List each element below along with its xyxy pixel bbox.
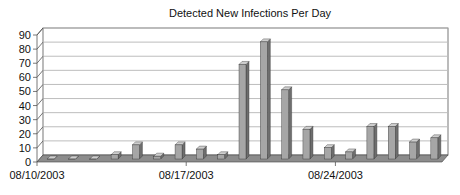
bar bbox=[324, 148, 331, 159]
bar-side bbox=[289, 87, 292, 159]
grid-diagonal bbox=[37, 141, 43, 148]
x-tick-label: 08/10/2003 bbox=[9, 169, 64, 181]
bar bbox=[111, 155, 118, 159]
grid-diagonal bbox=[37, 56, 43, 63]
grid-diagonal bbox=[37, 84, 43, 91]
bar bbox=[239, 64, 246, 159]
bar-side bbox=[438, 135, 441, 159]
grid-diagonal bbox=[37, 127, 43, 134]
y-tick-label: 10 bbox=[19, 142, 31, 154]
bar bbox=[431, 138, 438, 159]
bar bbox=[90, 159, 97, 160]
bar-side bbox=[395, 124, 398, 159]
bar bbox=[282, 90, 289, 159]
bar-side bbox=[310, 126, 313, 159]
y-tick-label: 40 bbox=[19, 100, 31, 112]
x-tick-label: 08/17/2003 bbox=[159, 169, 214, 181]
bar bbox=[218, 155, 225, 159]
bar bbox=[154, 156, 161, 159]
bar bbox=[367, 127, 374, 159]
grid-diagonal bbox=[37, 99, 43, 106]
bar bbox=[388, 127, 395, 159]
bar bbox=[346, 152, 353, 159]
plot-area: 010203040506070809008/10/200308/17/20030… bbox=[0, 0, 460, 195]
bar-side bbox=[267, 39, 270, 159]
grid-diagonal bbox=[37, 113, 43, 120]
x-tick-label: 08/24/2003 bbox=[308, 169, 363, 181]
y-tick-label: 90 bbox=[19, 29, 31, 41]
y-tick-label: 70 bbox=[19, 57, 31, 69]
bar bbox=[410, 142, 417, 159]
bar bbox=[175, 145, 182, 159]
bar-side bbox=[417, 139, 420, 159]
y-tick-label: 0 bbox=[25, 156, 31, 168]
bar bbox=[132, 145, 139, 159]
y-tick-label: 50 bbox=[19, 85, 31, 97]
y-tick-label: 30 bbox=[19, 114, 31, 126]
chart: Detected New Infections Per Day 01020304… bbox=[0, 0, 460, 195]
bar bbox=[68, 159, 75, 160]
bar bbox=[260, 42, 267, 159]
bar-side bbox=[374, 124, 377, 159]
bar bbox=[196, 149, 203, 159]
bar-side bbox=[246, 61, 249, 159]
y-tick-label: 80 bbox=[19, 43, 31, 55]
y-tick-label: 20 bbox=[19, 128, 31, 140]
grid-diagonal bbox=[37, 70, 43, 77]
bar bbox=[303, 129, 310, 159]
grid-diagonal bbox=[37, 42, 43, 49]
bar bbox=[47, 159, 54, 160]
y-tick-label: 60 bbox=[19, 71, 31, 83]
